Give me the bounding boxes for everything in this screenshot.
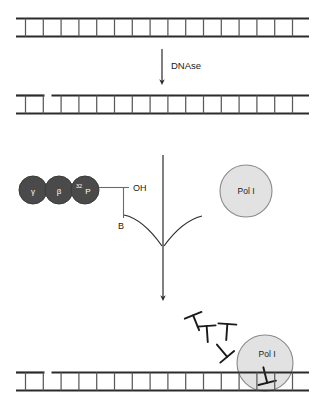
pol-i-free-label: Pol I <box>237 186 254 196</box>
phosphorus-label: P <box>85 187 90 196</box>
nick-translation-diagram: DNAse γ β <box>0 0 325 413</box>
phosphorus-32-superscript: 32 <box>76 183 82 189</box>
gamma-phosphate-label: γ <box>31 187 35 196</box>
released-nucleotide <box>217 323 236 340</box>
released-nucleotide <box>185 312 208 334</box>
dnase-label: DNAse <box>171 60 201 71</box>
base-label: B <box>118 221 124 231</box>
substrate-input-curve <box>124 215 162 246</box>
released-nucleotide <box>198 325 217 342</box>
dna-strand-nicked <box>16 96 309 114</box>
pol-i-free: Pol I <box>220 165 272 217</box>
pol-i-bound-label: Pol I <box>258 349 275 359</box>
dnase-reaction-arrow: DNAse <box>162 49 201 82</box>
beta-phosphate-label: β <box>57 187 62 196</box>
labeled-dntp: γ β 32 P OH B <box>19 176 147 231</box>
hydroxyl-label: OH <box>133 183 147 193</box>
base-pair-rungs <box>26 96 293 114</box>
released-nucleotides <box>185 312 237 363</box>
base-pair-rungs <box>26 19 293 37</box>
main-reaction-arrow <box>124 155 202 298</box>
released-nucleotide <box>210 339 234 363</box>
dna-strand-intact <box>16 19 309 37</box>
enzyme-input-curve <box>164 216 202 246</box>
pol-i-bound: Pol I <box>237 335 293 391</box>
